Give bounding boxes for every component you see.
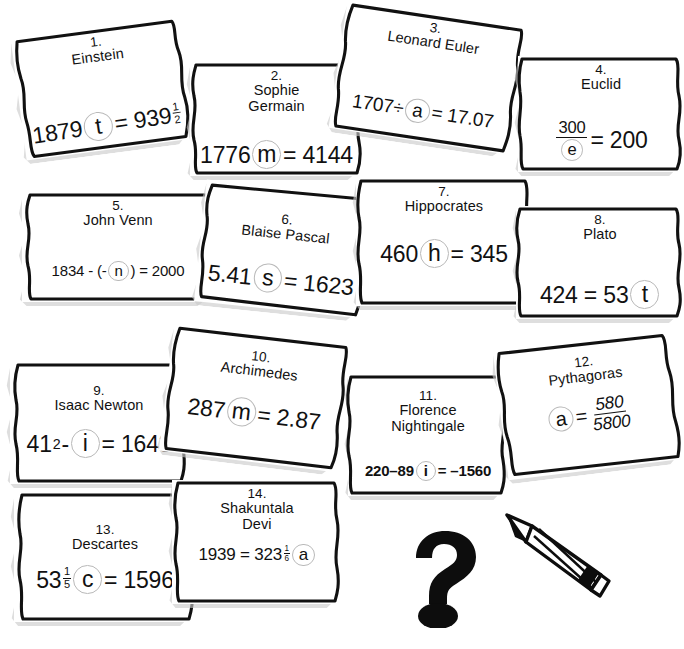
- card-10[interactable]: 10. Archimedes 287m= 2.87: [159, 324, 353, 473]
- card-name: Einstein: [71, 46, 125, 69]
- card-equation: 424 = 53t: [540, 280, 660, 309]
- worksheet-sheet: 1. Einstein 1879t= 93912 2. Sophie Germa…: [0, 0, 684, 649]
- card-number: 8.: [594, 213, 605, 227]
- card-body: 10. Archimedes 287m= 2.87: [159, 324, 353, 473]
- card-12[interactable]: 12. Pythagoras a = 5805800: [493, 330, 684, 481]
- card-6[interactable]: 6. Blaise Pascal 5.41s= 1623: [194, 180, 374, 319]
- card-body: 12. Pythagoras a = 5805800: [493, 330, 684, 481]
- card-number: 14.: [247, 487, 266, 501]
- card-name: Shakuntala Devi: [220, 501, 294, 533]
- card-body: 8. Plato 424 = 53t: [516, 206, 684, 319]
- card-body: 7. Hippocrates 460h= 345: [356, 178, 532, 306]
- card-body: 6. Blaise Pascal 5.41s= 1623: [194, 180, 374, 319]
- card-equation: 1776m = 4144: [200, 140, 353, 169]
- answer-bubble-s[interactable]: s: [252, 262, 283, 293]
- card-7[interactable]: 7. Hippocrates 460h= 345: [356, 178, 532, 306]
- card-name: Blaise Pascal: [241, 223, 331, 248]
- answer-bubble-a[interactable]: a: [292, 544, 314, 566]
- card-equation: 220–89i = –1560: [365, 461, 491, 481]
- card-text: 11. Florence Nightingale 220–89i = –1560: [348, 374, 508, 496]
- card-8[interactable]: 8. Plato 424 = 53t: [516, 206, 684, 319]
- card-5[interactable]: 5. John Venn 1834 - (-n) = 2000: [22, 192, 214, 302]
- answer-bubble-c[interactable]: c: [73, 565, 102, 594]
- card-number: 4.: [595, 63, 606, 77]
- card-name: Sophie Germain: [248, 83, 304, 115]
- card-number: 13.: [95, 523, 114, 537]
- card-name: John Venn: [83, 213, 152, 229]
- answer-bubble-e[interactable]: e: [561, 139, 583, 161]
- card-number: 9.: [93, 384, 104, 398]
- card-equation: 1707÷a= 17.07: [351, 89, 496, 134]
- card-text: 3. Leonard Euler 1707÷a= 17.07: [329, 1, 528, 154]
- card-equation: 412 -i= 1643: [27, 429, 172, 458]
- card-text: 10. Archimedes 287m= 2.87: [159, 324, 353, 473]
- card-4[interactable]: 4. Euclid 300 e = 200: [518, 56, 684, 172]
- card-name: Archimedes: [220, 360, 299, 385]
- card-equation: a = 5805800: [545, 391, 635, 439]
- answer-bubble-a[interactable]: a: [404, 97, 432, 125]
- card-body: 13. Descartes 5315c= 1596: [14, 492, 196, 622]
- answer-bubble-a[interactable]: a: [547, 405, 575, 433]
- card-name: Euclid: [581, 77, 621, 93]
- card-text: 7. Hippocrates 460h= 345: [356, 178, 532, 306]
- card-equation: 287m= 2.87: [186, 391, 322, 436]
- card-text: 14. Shakuntala Devi 1939 = 32316a: [172, 480, 342, 604]
- card-name: Plato: [583, 227, 617, 243]
- card-equation: 1834 - (-n) = 2000: [52, 261, 185, 281]
- card-body: 14. Shakuntala Devi 1939 = 32316a: [172, 480, 342, 604]
- answer-bubble-i[interactable]: i: [416, 461, 436, 481]
- answer-bubble-i[interactable]: i: [71, 429, 100, 458]
- answer-bubble-m[interactable]: m: [252, 140, 281, 169]
- card-text: 8. Plato 424 = 53t: [516, 206, 684, 319]
- card-body: 1. Einstein 1879t= 93912: [11, 18, 193, 161]
- card-number: 7.: [438, 185, 449, 199]
- card-name: Hippocrates: [405, 199, 483, 215]
- card-equation: 300 e = 200: [554, 120, 647, 161]
- card-3[interactable]: 3. Leonard Euler 1707÷a= 17.07: [329, 1, 528, 154]
- card-name: Descartes: [72, 537, 138, 553]
- card-text: 5. John Venn 1834 - (-n) = 2000: [22, 192, 214, 302]
- card-1[interactable]: 1. Einstein 1879t= 93912: [11, 18, 193, 161]
- card-body: 3. Leonard Euler 1707÷a= 17.07: [329, 1, 528, 154]
- card-body: 11. Florence Nightingale 220–89i = –1560: [348, 374, 508, 496]
- card-name: Florence Nightingale: [391, 403, 465, 435]
- answer-bubble-m[interactable]: m: [225, 396, 257, 428]
- card-name: Pythagoras: [548, 365, 624, 390]
- answer-bubble-t[interactable]: t: [82, 110, 115, 143]
- card-text: 6. Blaise Pascal 5.41s= 1623: [194, 180, 374, 319]
- card-equation: 5.41s= 1623: [207, 258, 356, 302]
- card-equation: 1939 = 32316a: [198, 544, 315, 566]
- card-14[interactable]: 14. Shakuntala Devi 1939 = 32316a: [172, 480, 342, 604]
- question-mark-icon: [402, 528, 488, 628]
- card-number: 2.: [271, 69, 282, 83]
- card-number: 11.: [419, 389, 437, 403]
- answer-bubble-t[interactable]: t: [630, 280, 659, 309]
- card-11[interactable]: 11. Florence Nightingale 220–89i = –1560: [348, 374, 508, 496]
- card-body: 5. John Venn 1834 - (-n) = 2000: [22, 192, 214, 302]
- card-text: 12. Pythagoras a = 5805800: [493, 330, 684, 481]
- card-body: 4. Euclid 300 e = 200: [518, 56, 684, 172]
- answer-bubble-h[interactable]: h: [420, 239, 449, 268]
- card-text: 13. Descartes 5315c= 1596: [14, 492, 196, 622]
- answer-bubble-n[interactable]: n: [108, 261, 128, 281]
- card-text: 4. Euclid 300 e = 200: [518, 56, 684, 172]
- card-equation: 460h= 345: [380, 239, 508, 268]
- pencil-icon: [496, 504, 614, 604]
- card-name: Isaac Newton: [54, 398, 143, 414]
- card-number: 5.: [112, 199, 123, 213]
- card-text: 1. Einstein 1879t= 93912: [11, 18, 193, 161]
- card-equation: 5315c= 1596: [36, 565, 174, 594]
- card-13[interactable]: 13. Descartes 5315c= 1596: [14, 492, 196, 622]
